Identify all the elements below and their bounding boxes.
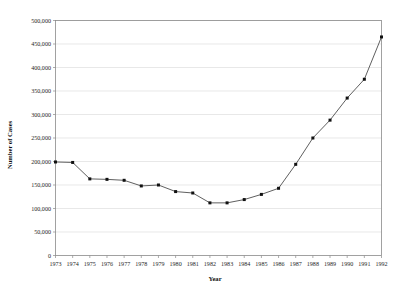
y-tick-label: 100,000	[31, 206, 51, 212]
data-point-marker	[363, 78, 366, 81]
x-tick-label: 1984	[238, 261, 250, 267]
y-tick-label: 200,000	[31, 159, 51, 165]
x-tick-label: 1974	[67, 261, 79, 267]
y-axis-title: Number of Cases	[6, 120, 13, 169]
x-tick-label: 1990	[341, 261, 353, 267]
x-tick-label: 1985	[255, 261, 267, 267]
line-chart: 050,000100,000150,000200,000250,000300,0…	[0, 0, 412, 295]
data-point-marker	[243, 198, 246, 201]
x-tick-label: 1988	[307, 261, 319, 267]
x-axis-title: Year	[208, 275, 221, 282]
data-point-marker	[208, 201, 211, 204]
x-tick-label: 1976	[101, 261, 113, 267]
y-tick-label: 150,000	[31, 182, 51, 188]
data-point-marker	[226, 201, 229, 204]
x-tick-label: 1978	[135, 261, 147, 267]
data-point-marker	[71, 161, 74, 164]
y-tick-label: 250,000	[31, 135, 51, 141]
y-tick-label: 400,000	[31, 65, 51, 71]
x-tick-label: 1975	[84, 261, 96, 267]
data-point-marker	[329, 119, 332, 122]
y-tick-label: 500,000	[31, 18, 51, 24]
data-point-marker	[140, 184, 143, 187]
x-tick-label: 1982	[204, 261, 216, 267]
chart-canvas: 050,000100,000150,000200,000250,000300,0…	[0, 0, 412, 295]
x-tick-label: 1986	[272, 261, 284, 267]
x-tick-label: 1979	[152, 261, 164, 267]
data-point-marker	[105, 178, 108, 181]
x-tick-label: 1980	[170, 261, 182, 267]
data-point-marker	[260, 193, 263, 196]
data-point-marker	[380, 35, 383, 38]
y-tick-label: 350,000	[31, 88, 51, 94]
x-tick-label: 1973	[49, 261, 61, 267]
data-point-marker	[54, 160, 57, 163]
y-tick-label: 50,000	[34, 229, 51, 235]
x-tick-label: 1992	[375, 261, 387, 267]
x-tick-label: 1989	[324, 261, 336, 267]
data-point-marker	[346, 97, 349, 100]
x-tick-label: 1977	[118, 261, 130, 267]
data-point-marker	[191, 191, 194, 194]
y-tick-label: 300,000	[31, 112, 51, 118]
x-tick-label: 1991	[358, 261, 370, 267]
y-tick-label: 0	[48, 253, 51, 259]
data-point-marker	[311, 137, 314, 140]
data-point-marker	[294, 163, 297, 166]
data-point-marker	[123, 179, 126, 182]
data-point-marker	[174, 190, 177, 193]
x-tick-label: 1981	[187, 261, 199, 267]
data-point-marker	[88, 177, 91, 180]
x-tick-label: 1987	[290, 261, 302, 267]
y-tick-label: 450,000	[31, 41, 51, 47]
x-tick-label: 1983	[221, 261, 233, 267]
data-point-marker	[157, 184, 160, 187]
data-point-marker	[277, 187, 280, 190]
